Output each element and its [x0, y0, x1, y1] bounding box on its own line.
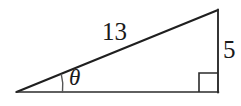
- opposite-side-label: 5: [223, 37, 236, 62]
- triangle-drawing: [0, 0, 241, 106]
- right-angle-marker-icon: [199, 73, 218, 92]
- angle-arc-icon: [61, 74, 63, 92]
- geometry-figure: 13 5 θ: [0, 0, 241, 106]
- angle-theta-label: θ: [69, 66, 80, 89]
- hypotenuse-label: 13: [102, 19, 127, 44]
